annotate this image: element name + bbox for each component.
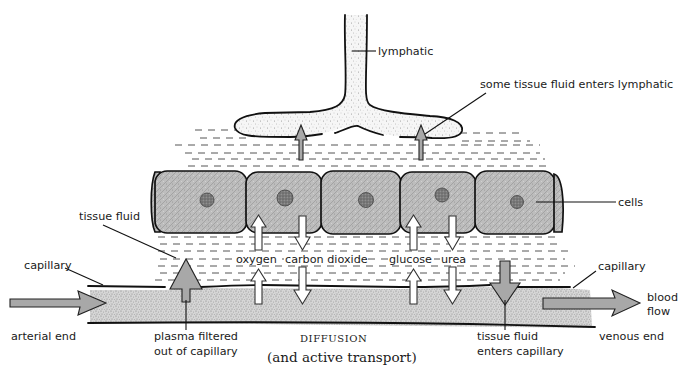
diffusion-label: DIFFUSION [300, 333, 367, 344]
capillary [88, 285, 595, 328]
nucleus-3 [359, 193, 374, 208]
lymph-entry-label: some tissue fluid enters lymphatic [480, 78, 673, 91]
lymphatic-label: lymphatic [378, 45, 433, 58]
capillary-right-leader [573, 271, 596, 288]
lymphatic-vessel [235, 15, 463, 138]
nucleus-5 [511, 196, 524, 209]
substance-urea: urea [441, 253, 466, 266]
venous-end-label: venous end [599, 330, 664, 343]
tissue-fluid-label: tissue fluid [79, 210, 140, 223]
nucleus-1 [200, 193, 214, 207]
tissue-fluid-diagram: lymphatic some tissue fluid enters lymph… [0, 0, 686, 374]
nucleus-4 [435, 188, 449, 202]
cells-layer [151, 171, 563, 234]
capillary-label-left: capillary [24, 259, 72, 272]
arterial-end-label: arterial end [11, 330, 76, 343]
tissue-fluid-enters-label-line1: tissue fluid [477, 330, 538, 343]
capillary-wall-upper-mid [200, 285, 490, 287]
capillary-label-right: capillary [598, 260, 646, 273]
substance-oxygen: oxygen [236, 253, 277, 266]
plasma-filtered-label-line2: out of capillary [154, 345, 238, 358]
blood-flow-label-line2: flow [647, 305, 670, 318]
nucleus-2 [277, 190, 293, 206]
substance-glucose: glucose [389, 253, 432, 266]
plasma-filtered-label-line1: plasma filtered [154, 330, 238, 343]
tissue-fluid-upper [175, 130, 548, 166]
substance-carbon-dioxide: carbon dioxide [285, 253, 368, 266]
cells-label: cells [618, 196, 643, 209]
capillary-left-leader [65, 268, 103, 285]
active-transport-label: (and active transport) [267, 349, 417, 365]
blood-flow-label-line1: blood [647, 291, 678, 304]
capillary-wall-upper-left [88, 286, 165, 287]
cell-partial-right [554, 174, 563, 232]
tissue-fluid-enters-label-line2: enters capillary [477, 345, 564, 358]
